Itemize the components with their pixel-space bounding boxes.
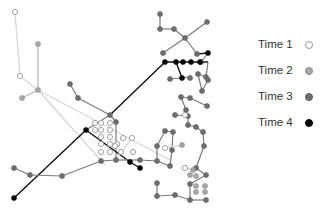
time-4-dot-icon [305,119,313,127]
graph-node [195,52,200,57]
graph-node [163,60,168,65]
graph-node [60,174,65,179]
legend-item-time-2: Time 2 [258,64,322,78]
graph-node [170,148,175,153]
graph-node [162,145,167,150]
graph-node [180,143,185,148]
graph-node [194,125,199,130]
legend-item-time-3: Time 3 [258,90,322,104]
graph-node [114,120,119,125]
graph-node [155,194,160,199]
edge-line [20,76,38,90]
graph-node [173,113,178,118]
edge-line [185,38,197,54]
network-graph [0,0,240,212]
graph-node [168,77,173,82]
graph-edges [14,12,208,200]
graph-node [92,127,97,132]
graph-node [155,159,160,164]
edge-line [38,90,170,160]
graph-node [158,27,163,32]
graph-nodes [12,9,211,202]
graph-node [155,144,160,149]
graph-node [188,173,193,178]
legend-label: Time 2 [258,64,293,76]
graph-node [168,164,173,169]
graph-node [205,104,210,109]
time-3-dot-icon [305,93,313,101]
graph-node [174,60,179,65]
time-1-dot-icon [305,41,313,49]
graph-node [182,112,187,117]
graph-node [163,129,168,134]
graph-node [84,128,89,133]
graph-node [130,149,135,154]
edge-line [14,130,86,198]
graph-node [36,88,41,93]
graph-node [206,78,211,83]
edge-line [30,175,62,176]
graph-node [171,130,176,135]
graph-node [205,20,210,25]
graph-node [68,82,73,87]
edge-line [110,62,165,115]
graph-node [138,158,143,163]
graph-node [129,135,134,140]
graph-node [173,193,178,198]
edge-line [196,146,204,168]
graph-node [92,120,97,125]
graph-node [36,42,41,47]
graph-node [128,160,133,165]
graph-node [99,159,104,164]
graph-node [188,76,193,81]
graph-node [17,73,22,78]
graph-node [107,141,112,146]
graph-node [188,96,193,101]
graph-node [204,173,209,178]
graph-node [98,141,103,146]
edge-line [185,22,207,38]
graph-node [98,134,103,139]
graph-node [98,120,103,125]
graph-node [107,134,112,139]
time-2-dot-icon [305,67,313,75]
graph-node [189,60,194,65]
graph-node [76,96,81,101]
graph-node [172,27,177,32]
graph-node [203,184,208,189]
legend-label: Time 3 [258,90,293,102]
graph-node [200,89,205,94]
graph-node [107,127,112,132]
graph-node [201,130,206,135]
graph-node [182,165,187,170]
graph-node [138,166,143,171]
graph-node [194,190,199,195]
graph-node [196,72,201,77]
graph-node [183,36,188,41]
graph-node [12,166,17,171]
graph-node [107,149,112,154]
graph-node [184,108,189,113]
graph-node [202,144,207,149]
graph-node [155,181,160,186]
legend-item-time-1: Time 1 [258,38,322,52]
graph-node [12,196,17,201]
graph-node [28,173,33,178]
graph-node [203,190,208,195]
graph-node [188,182,193,187]
graph-node [194,174,199,179]
graph-node [158,12,163,17]
graph-node [120,135,125,140]
graph-node [180,76,185,81]
edge-line [62,161,101,176]
graph-node [98,149,103,154]
edge-line [15,12,20,76]
graph-node [161,51,166,56]
graph-node [108,113,113,118]
graph-node [98,127,103,132]
graph-node [107,120,112,125]
graph-node [204,198,209,203]
legend-label: Time 4 [258,116,293,128]
graph-node [12,9,17,14]
graph-node [118,149,123,154]
